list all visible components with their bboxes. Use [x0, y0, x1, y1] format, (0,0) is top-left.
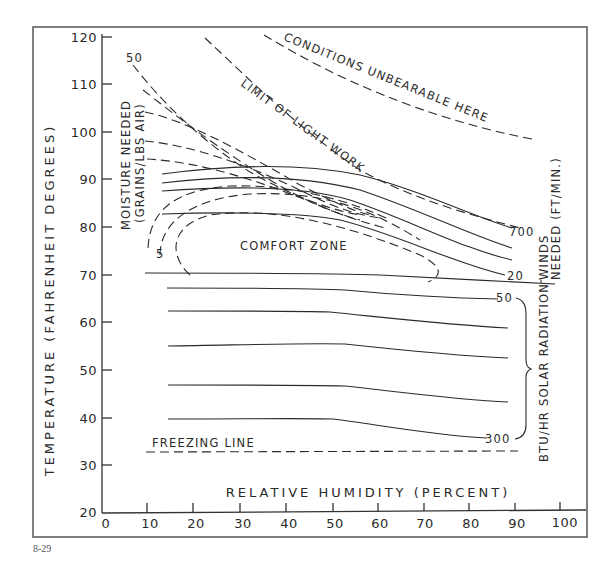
x-tick-label: 80 — [462, 516, 480, 531]
y-tick-label: 20 — [79, 505, 97, 520]
solar-curves — [167, 288, 508, 438]
winds-min-label: 20 — [507, 269, 524, 283]
winds-units: NEEDED (FT/MIN.) — [549, 157, 563, 280]
solar-max-label: 300 — [485, 432, 511, 446]
x-tick-label: 10 — [141, 516, 159, 531]
chart-frame — [33, 27, 587, 537]
wind-curves — [162, 167, 512, 275]
y-tick-label: 30 — [79, 458, 97, 473]
x-tick-label: 30 — [234, 516, 252, 531]
x-tick-label: 40 — [280, 516, 298, 531]
y-tick-label: 60 — [79, 315, 97, 330]
solar-brace — [515, 298, 531, 439]
freezing-line-label: FREEZING LINE — [152, 436, 255, 450]
y-tick-label: 50 — [79, 363, 97, 378]
y-tick-label: 120 — [71, 30, 97, 45]
moisture-units: (GRAINS/LBS AIR) — [133, 103, 147, 223]
comfort-zone-label: COMFORT ZONE — [240, 239, 348, 253]
x-axis — [102, 502, 586, 513]
y-tick-label: 80 — [79, 220, 97, 235]
y-tick-label: 70 — [79, 268, 97, 283]
y-axis — [102, 34, 112, 513]
moisture-title: MOISTURE NEEDED — [119, 100, 133, 230]
y-tick-label: 100 — [71, 125, 97, 140]
x-tick-label: 20 — [187, 516, 205, 531]
x-tick-label: 90 — [508, 516, 526, 531]
x-tick-label: 70 — [416, 516, 434, 531]
light-work-label: LIMIT OF LIGHT WORK — [238, 76, 368, 175]
x-axis-title: RELATIVE HUMIDITY (PERCENT) — [226, 485, 510, 500]
y-tick-label: 90 — [79, 172, 97, 187]
unbearable-label: CONDITIONS UNBEARABLE HERE — [282, 30, 491, 125]
y-tick-label: 40 — [79, 411, 97, 426]
winds-max-label: 700 — [509, 225, 535, 239]
solar-title: BTU/HR SOLAR RADIATION — [537, 283, 551, 462]
solar-min-label: 50 — [496, 291, 513, 305]
y-axis-title: TEMPERATURE (FAHRENHEIT DEGREES) — [42, 124, 57, 478]
moisture-min-label: 5 — [156, 247, 165, 261]
y-tick-label: 110 — [71, 77, 97, 92]
x-tick-label: 0 — [102, 516, 111, 531]
bioclimatic-chart: 120 110 100 90 80 70 60 50 40 30 20 0 10… — [0, 0, 606, 576]
comfort-zone-lower-boundary — [145, 273, 555, 284]
x-tick-label: 50 — [326, 516, 344, 531]
y-tick-labels: 120 110 100 90 80 70 60 50 40 30 20 — [71, 30, 97, 520]
x-tick-label: 100 — [552, 515, 578, 530]
moisture-max-label: 50 — [126, 51, 143, 65]
x-tick-label: 60 — [371, 516, 389, 531]
page-label: 8-29 — [33, 543, 51, 554]
x-tick-labels: 0 10 20 30 40 50 60 70 80 90 100 — [102, 515, 579, 531]
freezing-line — [146, 451, 518, 452]
